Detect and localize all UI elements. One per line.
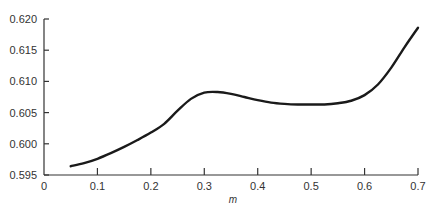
x-tick-label: 0.5 — [303, 180, 318, 192]
y-tick-label: 0.610 — [9, 75, 37, 87]
x-tick-label: 0 — [41, 180, 47, 192]
y-tick-label: 0.595 — [9, 169, 37, 181]
x-tick-label: 0.3 — [197, 180, 212, 192]
y-tick-label: 0.615 — [9, 44, 37, 56]
y-axis: 0.5950.6000.6050.6100.6150.620 — [9, 13, 49, 181]
line-chart: 0.5950.6000.6050.6100.6150.620 00.10.20.… — [0, 0, 437, 211]
y-tick-label: 0.605 — [9, 107, 37, 119]
y-tick-label: 0.600 — [9, 138, 37, 150]
x-tick-label: 0.2 — [143, 180, 158, 192]
x-tick-label: 0.7 — [410, 180, 425, 192]
x-tick-label: 0.6 — [357, 180, 372, 192]
x-axis: 00.10.20.30.40.50.60.7 — [41, 168, 426, 192]
x-tick-label: 0.4 — [250, 180, 265, 192]
data-line — [71, 28, 418, 167]
x-tick-label: 0.1 — [90, 180, 105, 192]
y-tick-label: 0.620 — [9, 13, 37, 25]
plot-area — [71, 28, 418, 167]
x-axis-title: m — [229, 194, 237, 205]
